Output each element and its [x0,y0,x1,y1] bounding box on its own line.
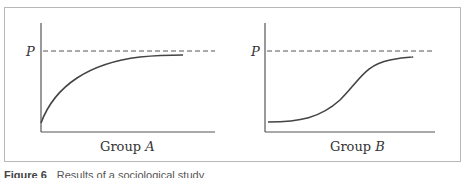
figure-caption: Figure 6Results of a sociological study [4,169,204,178]
x-label-a: Group A [100,139,155,154]
panel-b: P Group B [250,23,435,154]
panel-a: P Group A [25,23,215,154]
curve-b [268,57,413,122]
p-marker-b: P [250,44,260,59]
figure-graphs: P Group A P Group B [0,0,467,178]
caption-text: Results of a sociological study [57,169,204,178]
curve-a [41,55,183,123]
p-marker-a: P [25,44,35,59]
caption-label: Figure 6 [4,169,47,178]
x-label-b: Group B [330,139,385,154]
